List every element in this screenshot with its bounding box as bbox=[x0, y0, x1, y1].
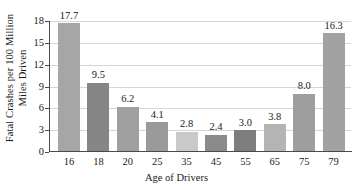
bar-value-label: 9.5 bbox=[92, 70, 105, 81]
bar-slot: 4.1 bbox=[146, 21, 168, 152]
y-axis-title-line-1: Fatal Crashes per 100 Million bbox=[4, 14, 15, 142]
y-axis-title-line-2: Miles Driven bbox=[16, 14, 29, 142]
bar-chart: Fatal Crashes per 100 Million Miles Driv… bbox=[0, 0, 353, 190]
bar-value-label: 17.7 bbox=[60, 11, 78, 22]
plot-area: 17.79.56.24.12.82.43.03.88.016.3 bbox=[49, 21, 351, 152]
bar-value-label: 6.2 bbox=[121, 94, 134, 105]
y-axis-tick-label: 18 bbox=[28, 16, 44, 27]
y-axis-tick-label: 3 bbox=[28, 125, 44, 136]
bar[interactable] bbox=[293, 94, 315, 152]
bar[interactable] bbox=[58, 23, 80, 152]
bar-slot: 9.5 bbox=[87, 21, 109, 152]
y-axis-tick bbox=[45, 152, 49, 153]
bar-slot: 8.0 bbox=[293, 21, 315, 152]
y-axis-tick-label: 12 bbox=[28, 60, 44, 71]
x-axis-line bbox=[49, 151, 352, 152]
bar-slot: 16.3 bbox=[323, 21, 345, 152]
bar-value-label: 16.3 bbox=[324, 21, 342, 32]
bar[interactable] bbox=[87, 83, 109, 152]
bar-value-label: 2.8 bbox=[180, 119, 193, 130]
bar[interactable] bbox=[264, 124, 286, 152]
x-axis-tick-label: 79 bbox=[317, 156, 351, 167]
bar-series: 17.79.56.24.12.82.43.03.88.016.3 bbox=[49, 21, 351, 152]
bar-slot: 2.8 bbox=[176, 21, 198, 152]
y-axis-tick-label: 6 bbox=[28, 103, 44, 114]
bar-slot: 17.7 bbox=[58, 21, 80, 152]
bar-value-label: 8.0 bbox=[298, 81, 311, 92]
bar-slot: 2.4 bbox=[205, 21, 227, 152]
y-axis-tick-label: 9 bbox=[28, 82, 44, 93]
x-axis-title: Age of Drivers bbox=[0, 172, 353, 184]
y-axis-tick-label: 0 bbox=[28, 147, 44, 158]
bar[interactable] bbox=[146, 122, 168, 152]
bar-value-label: 2.4 bbox=[209, 122, 222, 133]
bar-value-label: 3.8 bbox=[268, 112, 281, 123]
bar[interactable] bbox=[117, 107, 139, 152]
y-axis-tick-label: 15 bbox=[28, 38, 44, 49]
bar[interactable] bbox=[205, 135, 227, 152]
bar-slot: 6.2 bbox=[117, 21, 139, 152]
bar[interactable] bbox=[234, 130, 256, 152]
bar-slot: 3.8 bbox=[264, 21, 286, 152]
bar-slot: 3.0 bbox=[234, 21, 256, 152]
bar[interactable] bbox=[176, 132, 198, 152]
bar-value-label: 4.1 bbox=[151, 110, 164, 121]
bar-value-label: 3.0 bbox=[239, 118, 252, 129]
bar[interactable] bbox=[323, 33, 345, 152]
